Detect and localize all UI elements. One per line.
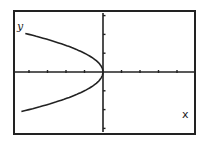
y-axis-label: y xyxy=(17,20,23,33)
graph-screen xyxy=(0,0,201,145)
x-axis-label: x xyxy=(182,108,189,121)
